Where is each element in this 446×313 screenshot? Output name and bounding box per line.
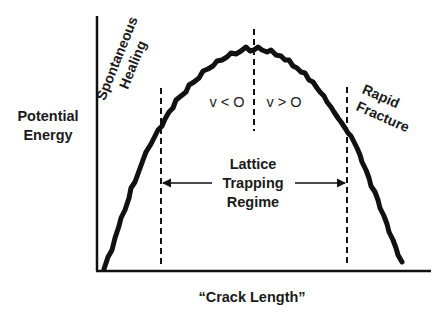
x-axis-label: “Crack Length” [198, 289, 305, 305]
y-axis-label-line-1: Potential [17, 108, 78, 124]
lattice-trapping-label-line-2: Trapping [222, 175, 283, 191]
lattice-trapping-label-line-1: Lattice [230, 156, 277, 172]
lattice-trapping-label-line-3: Regime [227, 194, 279, 210]
velocity-positive-label: v > O [266, 94, 301, 110]
velocity-negative-label: v < O [209, 94, 244, 110]
y-axis-label-line-2: Energy [23, 127, 72, 143]
potential-energy-diagram: Potential Energy Spontaneous Healing Rap… [0, 0, 446, 313]
